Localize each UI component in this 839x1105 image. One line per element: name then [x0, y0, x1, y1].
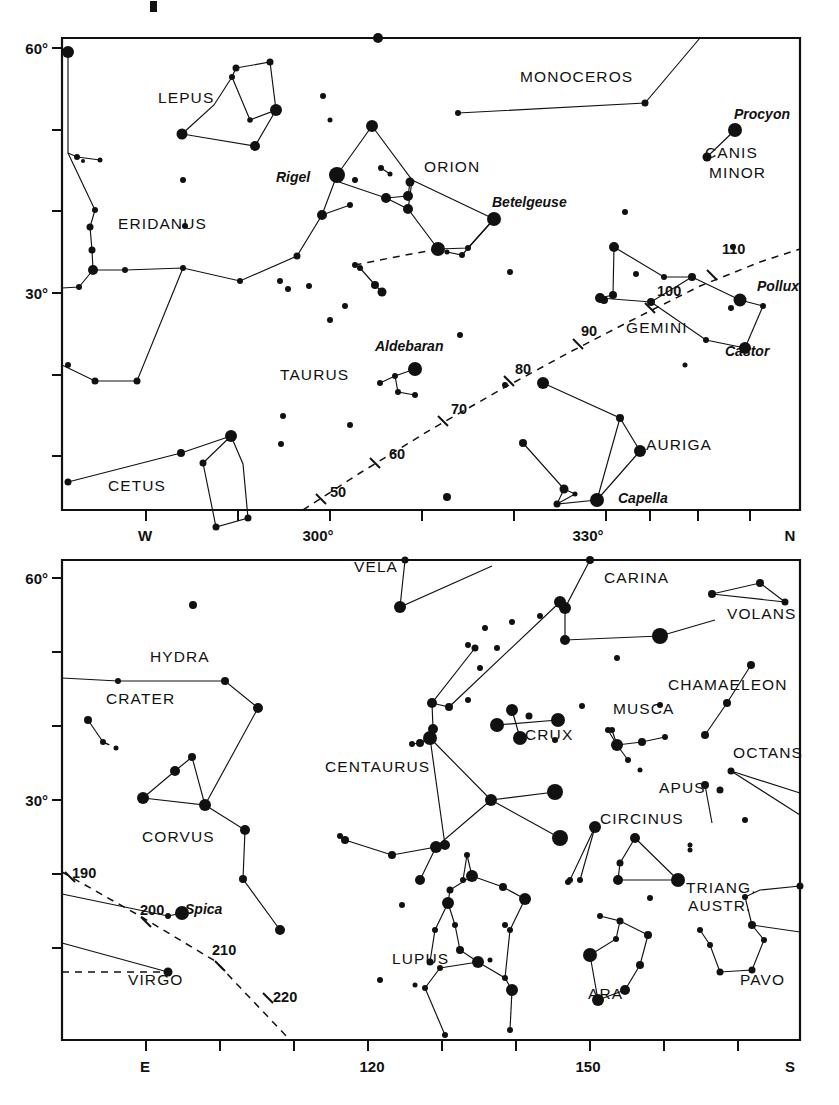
y-axis-label: 30°	[25, 792, 48, 809]
constellation-line	[497, 720, 558, 725]
star-point	[647, 298, 655, 306]
star-point	[455, 110, 461, 116]
x-axis-label: E	[140, 1058, 150, 1075]
x-axis-label: S	[785, 1058, 795, 1075]
star-point	[381, 193, 391, 203]
star-point	[445, 703, 453, 711]
lower-sky-panel: 60°30°E120150S190200210220VELACARINAVOLA…	[0, 545, 839, 1105]
star-point	[728, 768, 735, 775]
star-point	[347, 422, 353, 428]
star-point	[644, 931, 652, 939]
ecliptic-number: 190	[72, 865, 96, 881]
star-point	[285, 286, 291, 292]
constellation-label: CENTAURUS	[325, 758, 430, 775]
star-point	[502, 975, 508, 981]
star-point	[177, 129, 188, 140]
star-point	[347, 202, 353, 208]
constellation-line	[400, 560, 492, 607]
star-point	[742, 817, 748, 823]
constellation-label: CANIS	[705, 144, 758, 161]
constellation-line	[700, 925, 764, 972]
star-point	[560, 635, 570, 645]
constellation-label: LEPUS	[158, 89, 214, 106]
star-point	[65, 479, 72, 486]
star-point	[377, 380, 383, 386]
constellation-label: GEMINI	[626, 319, 688, 336]
star-point	[756, 579, 764, 587]
star-point	[247, 117, 253, 123]
lower-frame	[62, 560, 800, 1040]
star-point	[717, 787, 724, 794]
star-point	[250, 141, 260, 151]
star-point	[456, 946, 464, 954]
star-point	[442, 897, 454, 909]
constellation-line	[510, 990, 512, 1030]
constellation-label: CARINA	[604, 569, 669, 586]
star-point	[221, 677, 229, 685]
star-point	[573, 492, 578, 497]
constellation-label: OCTANS	[733, 744, 803, 761]
ecliptic-tick	[707, 270, 717, 280]
star-point	[371, 281, 379, 289]
star-point	[507, 269, 513, 275]
ecliptic-number: 70	[451, 401, 467, 417]
x-axis-label: 150	[575, 1058, 600, 1075]
star-point	[452, 922, 458, 928]
upper-sky-panel: 60°30°W300°330°N5060708090100110LEPUSMON…	[0, 0, 839, 545]
star-point	[122, 267, 128, 273]
star-point	[488, 958, 493, 963]
constellation-line	[182, 77, 276, 146]
constellation-label: MUSCA	[613, 700, 674, 717]
star-point	[583, 948, 597, 962]
star-point	[253, 703, 263, 713]
star-point	[730, 244, 736, 250]
star-point	[622, 209, 628, 215]
star-point	[717, 969, 724, 976]
star-point	[92, 378, 99, 385]
star-point	[565, 879, 571, 885]
star-point	[342, 303, 348, 309]
star-point	[586, 556, 594, 564]
constellation-label: LUPUS	[392, 950, 449, 967]
star-point	[688, 848, 693, 853]
star-point	[617, 918, 624, 925]
star-point	[388, 172, 393, 177]
star-point	[490, 718, 504, 732]
star-point	[708, 590, 716, 598]
constellation-line	[430, 738, 445, 847]
star-point	[177, 449, 185, 457]
star-point	[671, 873, 685, 887]
ecliptic-tick	[141, 917, 151, 927]
y-axis-label: 60°	[25, 40, 48, 57]
star-name-label: Spica	[185, 901, 223, 917]
constellation-line	[620, 921, 648, 990]
star-point	[703, 337, 709, 343]
x-axis-label: N	[785, 527, 796, 544]
ecliptic-tick	[263, 993, 273, 1003]
star-point	[443, 493, 451, 501]
star-point	[413, 983, 418, 988]
star-name-label: Aldebaran	[374, 338, 443, 354]
constellation-line	[705, 785, 712, 823]
star-point	[551, 713, 565, 727]
star-point	[422, 985, 428, 991]
constellation-line	[618, 838, 678, 880]
star-point	[399, 902, 405, 908]
star-point	[460, 877, 466, 883]
star-point	[472, 956, 484, 968]
constellation-line	[339, 182, 410, 198]
star-point	[707, 942, 713, 948]
star-point	[392, 373, 398, 379]
star-point	[477, 665, 483, 671]
star-point	[180, 265, 186, 271]
star-point	[634, 445, 646, 457]
star-point	[403, 204, 413, 214]
star-point	[188, 753, 196, 761]
star-point	[494, 645, 500, 651]
constellation-line	[430, 738, 560, 838]
constellation-label: AURIGA	[646, 436, 712, 453]
star-point	[423, 731, 437, 745]
star-point	[431, 242, 445, 256]
star-point	[237, 278, 243, 284]
constellation-label: VIRGO	[128, 971, 183, 988]
